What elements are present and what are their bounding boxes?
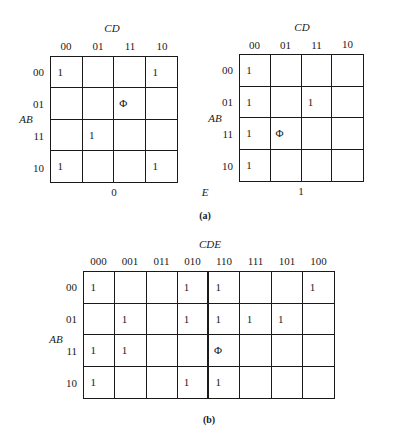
kmap-cell: 1 — [84, 335, 115, 367]
kmap-cell — [303, 335, 334, 367]
kmap-cell: Φ — [271, 118, 302, 150]
row-label: 11 — [53, 345, 77, 357]
kmap-cell — [147, 367, 178, 399]
kmap-cell — [302, 150, 333, 182]
kmap-cell — [271, 150, 302, 182]
col-label: 01 — [82, 40, 114, 52]
kmap-cell — [271, 87, 302, 119]
kmap-cell — [83, 88, 115, 119]
col-label: 001 — [114, 255, 146, 267]
row-label: 00 — [209, 64, 233, 76]
kmap-cell — [332, 118, 363, 150]
kmap-cell — [146, 120, 178, 151]
kmap-cell — [84, 304, 115, 336]
kmap-cell — [115, 367, 146, 399]
kmap-cell: 1 — [83, 120, 115, 151]
kmap-cell: 1 — [240, 150, 271, 182]
row-label: 10 — [209, 160, 233, 172]
kmap-cell: 1 — [51, 57, 83, 88]
kmap-cell: 1 — [84, 272, 115, 304]
col-var-label: CDE — [190, 238, 230, 250]
kmap-cell — [115, 272, 146, 304]
kmap-cell: 1 — [146, 151, 178, 182]
col-label: 101 — [271, 255, 303, 267]
kmap-cell — [83, 57, 115, 88]
kmap-cell — [332, 150, 363, 182]
kmap-cell — [83, 151, 115, 182]
col-var-label: CD — [96, 22, 128, 34]
kmap-cell — [146, 88, 178, 119]
kmap-cell — [240, 272, 271, 304]
kmap-cell: Φ — [209, 335, 240, 367]
kmap-cell: 1 — [302, 87, 333, 119]
kmap-cell: 1 — [303, 272, 334, 304]
col-label: 11 — [114, 40, 146, 52]
kmap-cell — [302, 118, 333, 150]
row-label: 10 — [53, 377, 77, 389]
kmap-cell: Φ — [114, 88, 146, 119]
kmap-cell — [147, 272, 178, 304]
col-label: 10 — [146, 40, 178, 52]
e-value-label: 1 — [291, 185, 311, 197]
kmap-cell: 1 — [240, 87, 271, 119]
e-variable-label: E — [197, 186, 213, 198]
kmap-grid: 1 1 Φ 1 1 1 — [50, 56, 178, 183]
kmap-cell — [147, 304, 178, 336]
row-var-label: AB — [46, 333, 66, 345]
kmap-cell: 1 — [178, 367, 209, 399]
kmap-cell: 1 — [240, 118, 271, 150]
kmap-cell: 1 — [146, 57, 178, 88]
kmap-cell — [51, 88, 83, 119]
kmap-grid: 1 1 1 1 Φ 1 — [239, 54, 364, 182]
kmap-cell — [114, 120, 146, 151]
kmap-cell — [271, 55, 302, 87]
kmap-cell — [302, 55, 333, 87]
col-label: 10 — [332, 38, 363, 50]
col-var-label: CD — [286, 21, 318, 33]
row-var-label: AB — [16, 113, 36, 125]
col-label: 100 — [303, 255, 334, 267]
kmap-cell — [51, 120, 83, 151]
kmap-cell: 1 — [209, 304, 240, 336]
kmap-cell — [303, 304, 334, 336]
kmap-cell: 1 — [178, 272, 209, 304]
kmap-cell: 1 — [84, 367, 115, 399]
row-var-label: AB — [205, 112, 225, 124]
kmap-cell: 1 — [209, 367, 240, 399]
kmap-cell: 1 — [115, 335, 146, 367]
kmap-cell — [272, 335, 303, 367]
kmap-cell — [303, 367, 334, 399]
kmap-cell: 1 — [272, 304, 303, 336]
row-label: 00 — [53, 281, 77, 293]
kmap-cell — [332, 87, 363, 119]
kmap-cell: 1 — [209, 272, 240, 304]
kmap-cell: 1 — [240, 304, 271, 336]
row-label: 01 — [209, 96, 233, 108]
kmap-cell: 1 — [178, 304, 209, 336]
row-label: 11 — [20, 130, 44, 142]
col-label: 00 — [50, 40, 82, 52]
col-label: 110 — [208, 255, 240, 267]
figure-b-caption: (b) — [194, 414, 224, 426]
kmap-cell — [272, 367, 303, 399]
row-label: 00 — [20, 66, 44, 78]
kmap-cell — [178, 335, 209, 367]
row-label: 01 — [20, 98, 44, 110]
row-label: 01 — [53, 313, 77, 325]
e-value-label: 0 — [104, 186, 124, 198]
col-label: 00 — [239, 39, 270, 51]
kmap-cell — [240, 335, 271, 367]
col-label: 01 — [270, 39, 301, 51]
kmap-grid: 1 1 1 1 1 1 1 1 1 1 1 Φ 1 1 1 — [83, 271, 335, 399]
col-label: 011 — [146, 255, 177, 267]
col-label: 010 — [177, 255, 208, 267]
col-label: 11 — [301, 39, 332, 51]
kmap-cell — [114, 151, 146, 182]
row-label: 10 — [20, 162, 44, 174]
kmap-cell — [114, 57, 146, 88]
kmap-cell — [272, 272, 303, 304]
kmap-cell: 1 — [51, 151, 83, 182]
col-label: 000 — [83, 255, 114, 267]
kmap-cell — [332, 55, 363, 87]
figure-a-caption: (a) — [190, 210, 220, 222]
